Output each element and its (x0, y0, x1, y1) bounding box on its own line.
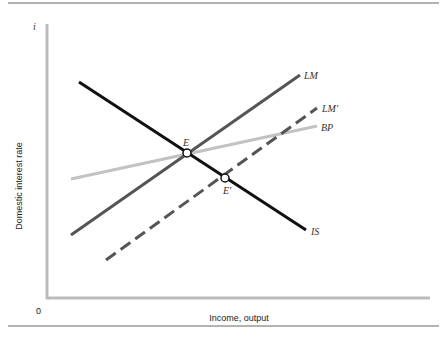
is-label: IS (310, 226, 319, 237)
is-lm-bp-diagram: i Domestic interest rate Income, output … (0, 0, 447, 340)
e-prime-label: E' (222, 185, 232, 196)
y-axis-symbol: i (33, 21, 36, 32)
e-label: E (182, 137, 189, 148)
is-curve (79, 82, 306, 230)
point-e (183, 149, 191, 157)
origin-label: 0 (36, 306, 41, 316)
lm-label: LM (303, 70, 319, 81)
point-e-prime (221, 174, 229, 182)
bp-curve (71, 126, 317, 179)
lm-prime-curve (106, 108, 317, 260)
bp-label: BP (321, 122, 333, 133)
x-axis-label: Income, output (209, 313, 269, 323)
y-axis-label: Domestic interest rate (14, 142, 24, 230)
lm-prime-label: LM' (321, 103, 339, 114)
